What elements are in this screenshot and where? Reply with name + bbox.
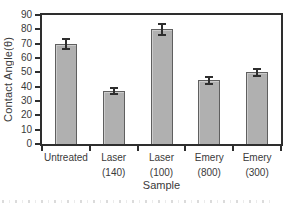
y-tick-label: 40: [2, 81, 32, 93]
bar: [151, 29, 173, 144]
x-axis-title: Sample: [40, 179, 283, 191]
plot-area: 0102030405060708090: [40, 13, 283, 146]
y-tick: [35, 143, 40, 145]
x-axis-category-labels: UntreatedLaser(140)Laser(100)Emery(800)E…: [40, 152, 283, 182]
x-tick: [137, 146, 139, 151]
y-tick: [35, 28, 40, 30]
bar: [246, 72, 268, 144]
cropped-caption-artifact: [2, 200, 274, 203]
bar: [55, 44, 77, 144]
y-tick-label: 20: [2, 109, 32, 121]
y-tick: [35, 57, 40, 59]
error-bar-cap-top: [158, 23, 166, 25]
bar: [198, 80, 220, 144]
y-tick: [35, 129, 40, 131]
y-tick-label: 90: [2, 9, 32, 21]
x-tick: [232, 146, 234, 151]
category-label-line2: (300): [229, 167, 285, 179]
y-tick: [35, 43, 40, 45]
error-bar-cap-bottom: [253, 75, 261, 77]
y-tick: [35, 86, 40, 88]
y-tick-label: 10: [2, 124, 32, 136]
y-tick-label: 60: [2, 52, 32, 64]
error-bar-cap-top: [62, 38, 70, 40]
category-label-line1: Emery: [229, 152, 285, 164]
error-bar-cap-bottom: [110, 93, 118, 95]
error-bar-cap-top: [110, 87, 118, 89]
x-tick: [280, 146, 282, 151]
y-tick-label: 80: [2, 23, 32, 35]
y-tick-label: 50: [2, 66, 32, 78]
x-tick: [89, 146, 91, 151]
y-tick: [35, 100, 40, 102]
x-tick: [184, 146, 186, 151]
bar: [103, 91, 125, 144]
y-tick: [35, 14, 40, 16]
y-tick: [35, 114, 40, 116]
y-tick: [35, 71, 40, 73]
y-tick-label: 0: [2, 138, 32, 150]
y-tick-label: 70: [2, 38, 32, 50]
x-tick: [41, 146, 43, 151]
contact-angle-bar-chart: Contact Angle(θ) 0102030405060708090 Unt…: [0, 0, 291, 204]
error-bar-cap-top: [253, 68, 261, 70]
category-label: Emery(300): [229, 152, 285, 179]
error-bar-cap-bottom: [62, 48, 70, 50]
error-bar-cap-bottom: [205, 83, 213, 85]
y-tick-label: 30: [2, 95, 32, 107]
error-bar-cap-bottom: [158, 34, 166, 36]
error-bar-cap-top: [205, 76, 213, 78]
